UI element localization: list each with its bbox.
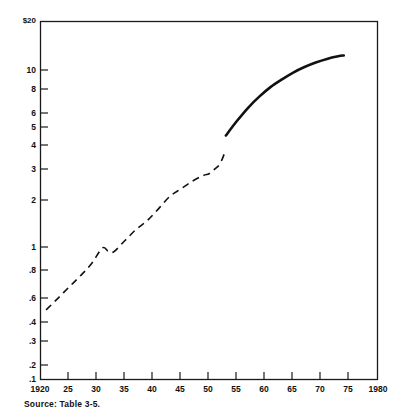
x-tick-label: 35 <box>119 384 129 394</box>
y-tick-label: 6 <box>31 108 36 118</box>
x-tick-label: 60 <box>259 384 269 394</box>
x-tick-label: 1920 <box>31 384 50 394</box>
y-tick-label: .1 <box>29 374 36 384</box>
y-tick-label: .8 <box>29 265 36 275</box>
series-line-projected <box>226 55 344 135</box>
y-tick-label: .3 <box>29 336 36 346</box>
x-tick-label: 50 <box>203 384 213 394</box>
x-tick-label: 40 <box>147 384 157 394</box>
y-tick-label: 8 <box>31 84 36 94</box>
y-axis-top-label: $20 <box>23 16 37 25</box>
figure-container: 10 8 6 5 4 3 2 1 .8 .6 .4 .3 .2 .1 $20 <box>0 0 397 416</box>
y-tick-label: 4 <box>31 140 36 150</box>
series-line-historical <box>46 150 226 310</box>
source-note: Source: Table 3-5. <box>24 399 100 409</box>
x-tick-label: 55 <box>231 384 241 394</box>
line-chart: 10 8 6 5 4 3 2 1 .8 .6 .4 .3 .2 .1 $20 <box>0 0 397 416</box>
y-tick-label: 1 <box>31 242 36 252</box>
y-tick-label: .2 <box>29 360 36 370</box>
x-tick-label: 25 <box>63 384 73 394</box>
x-tick-label: 75 <box>343 384 353 394</box>
x-axis-ticks <box>68 372 348 380</box>
y-tick-label: .4 <box>29 317 36 327</box>
y-tick-label: 10 <box>27 65 37 75</box>
x-tick-label: 70 <box>315 384 325 394</box>
x-tick-label: 1980 <box>369 384 388 394</box>
x-axis-labels: 1920 25 30 35 40 45 50 55 60 65 70 75 19… <box>31 384 388 394</box>
x-tick-label: 65 <box>287 384 297 394</box>
y-axis-ticks <box>41 70 49 365</box>
y-tick-label: .6 <box>29 293 36 303</box>
y-tick-label: 3 <box>31 164 36 174</box>
x-tick-label: 30 <box>91 384 101 394</box>
plot-frame <box>41 22 378 380</box>
x-tick-label: 45 <box>175 384 185 394</box>
y-axis-labels: 10 8 6 5 4 3 2 1 .8 .6 .4 .3 .2 .1 $20 <box>23 16 37 384</box>
y-tick-label: 2 <box>31 195 36 205</box>
y-tick-label: 5 <box>31 122 36 132</box>
